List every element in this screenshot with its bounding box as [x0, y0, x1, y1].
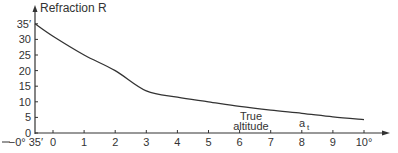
y-tick-label: 5 [25, 111, 31, 123]
x-tick-label: 10° [356, 136, 373, 148]
y-tick-label: 35′ [17, 18, 31, 30]
y-tick-label: 10 [19, 96, 31, 108]
x-tick-label: 9 [330, 136, 336, 148]
refraction-chart: 05101520253035′012345678910°−0° 35′Refra… [0, 0, 398, 153]
y-tick-label: 30 [19, 33, 31, 45]
y-tick-label: 25 [19, 49, 31, 61]
y-axis-title: Refraction R [40, 1, 107, 15]
x-tick-label: 5 [205, 136, 211, 148]
x-axis-title-line2: altitude [233, 120, 268, 132]
x-origin-label: −0° 35′ [9, 136, 43, 148]
x-tick-label: 4 [174, 136, 180, 148]
x-axis-symbol: a [299, 117, 306, 129]
x-axis-arrow-icon [382, 131, 390, 136]
x-tick-label: 0 [50, 136, 56, 148]
y-axis-arrow-icon [33, 5, 38, 12]
x-tick-label: 6 [237, 136, 243, 148]
y-tick-label: 20 [19, 65, 31, 77]
x-tick-label: 8 [299, 136, 305, 148]
x-axis-symbol-subscript: t [307, 123, 310, 132]
x-tick-label: 7 [268, 136, 274, 148]
y-tick-label: 15 [19, 80, 31, 92]
x-tick-label: 3 [143, 136, 149, 148]
x-tick-label: 2 [112, 136, 118, 148]
x-tick-label: 1 [81, 136, 87, 148]
refraction-curve [35, 24, 364, 120]
